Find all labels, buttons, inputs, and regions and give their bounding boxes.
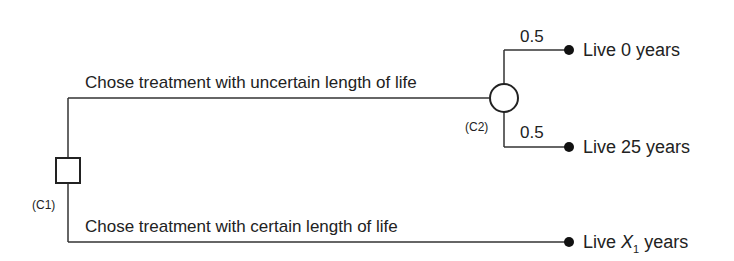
terminal-node-dot bbox=[564, 45, 574, 55]
chance-node-label: (C2) bbox=[465, 121, 488, 133]
decision-node-label: (C1) bbox=[32, 199, 55, 211]
outcome-variable: X bbox=[621, 232, 633, 252]
terminal-node-dot bbox=[564, 237, 574, 247]
probability-label: 0.5 bbox=[520, 28, 544, 45]
outcome-suffix: years bbox=[639, 232, 688, 252]
branch-label-uncertain: Chose treatment with uncertain length of… bbox=[85, 74, 417, 91]
outcome-label: Live 25 years bbox=[583, 138, 690, 156]
outcome-prefix: Live bbox=[583, 232, 621, 252]
outcome-label: Live 0 years bbox=[583, 41, 680, 59]
decision-node-square bbox=[56, 158, 80, 183]
branch-label-certain: Chose treatment with certain length of l… bbox=[85, 218, 398, 235]
outcome-label-certain: Live X1 years bbox=[583, 233, 688, 255]
probability-label: 0.5 bbox=[520, 124, 544, 141]
terminal-node-dot bbox=[564, 142, 574, 152]
chance-node-circle bbox=[490, 84, 518, 112]
